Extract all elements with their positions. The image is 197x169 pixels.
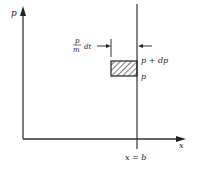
left-dimension-arrow-icon xyxy=(106,44,111,48)
lower-momentum-label: p xyxy=(141,72,146,81)
right-dimension-arrow-icon xyxy=(138,44,143,48)
upper-momentum-label: p + dp xyxy=(141,56,168,65)
y-axis-label: p xyxy=(11,8,17,18)
diagram-canvas: p x x = b p m dt p + dp p xyxy=(0,0,197,169)
x-axis-label: x xyxy=(179,141,184,150)
fraction-numerator: p xyxy=(75,37,80,45)
phase-space-diagram: p x x = b p m dt p + dp p xyxy=(0,0,197,169)
y-axis-arrow-icon xyxy=(20,6,26,16)
fraction-denominator: m xyxy=(73,46,80,54)
width-suffix: dt xyxy=(84,43,91,51)
hatched-strip xyxy=(111,61,137,76)
boundary-label: x = b xyxy=(125,153,146,162)
